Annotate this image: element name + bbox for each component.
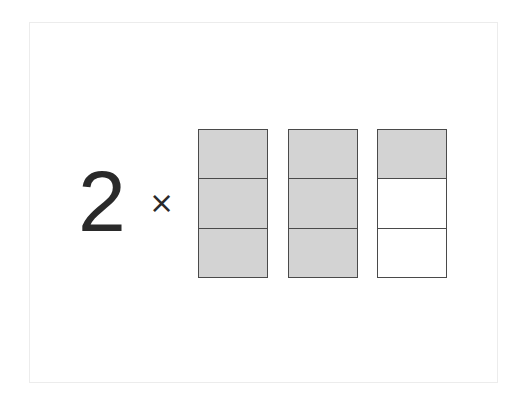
shaded-part — [289, 130, 357, 178]
multiplier-number: 2 — [78, 158, 126, 244]
shaded-part — [199, 228, 267, 277]
empty-part — [378, 228, 446, 277]
shaded-part — [378, 130, 446, 178]
shaded-part — [199, 130, 267, 178]
times-icon: × — [149, 188, 174, 218]
shaded-part — [289, 228, 357, 277]
shaded-part — [199, 178, 267, 227]
empty-part — [378, 178, 446, 227]
fraction-bar-2 — [288, 129, 358, 278]
fraction-bar-1 — [198, 129, 268, 278]
shaded-part — [289, 178, 357, 227]
fraction-bar-3 — [377, 129, 447, 278]
